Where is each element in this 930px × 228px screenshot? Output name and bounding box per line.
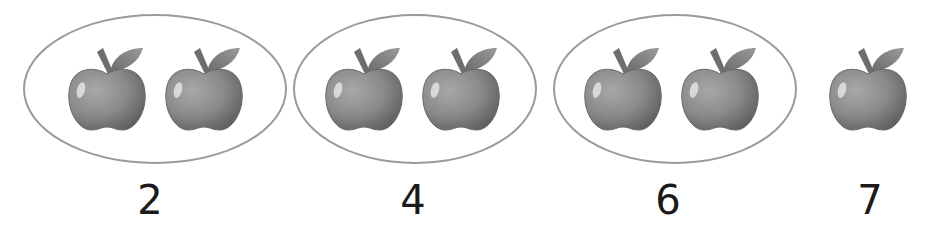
apple-icon [581,42,665,132]
apple-icon [678,42,762,132]
count-label-4: 7 [857,176,882,224]
count-label-1: 2 [137,176,162,224]
apple-icon [419,42,503,132]
apple-icon [826,42,910,132]
apple-icon [162,42,246,132]
apple-icon [65,42,149,132]
count-label-2: 4 [400,176,425,224]
apple-icon [322,42,406,132]
count-label-3: 6 [655,176,680,224]
group-oval-1 [23,14,287,164]
